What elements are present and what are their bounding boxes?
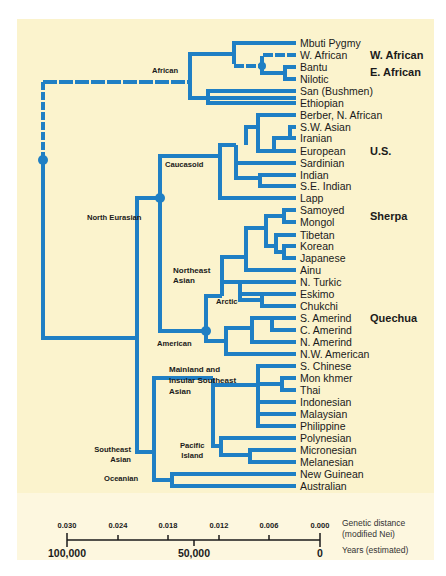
leaf-label: Nilotic [300, 73, 329, 85]
leaf-label: Australian [300, 480, 347, 492]
clade-label-caucasoid: Caucasoid [165, 160, 203, 170]
distance-tick: 0.030 [58, 521, 77, 530]
leaf-label: S. Chinese [300, 360, 351, 372]
leaf-label: San (Bushmen) [300, 85, 373, 97]
leaf-label: N.W. American [300, 348, 369, 360]
leaf-label: Polynesian [300, 432, 351, 444]
leaf-label: Ainu [300, 264, 321, 276]
clade-label-oceanian: Oceanian [104, 474, 138, 484]
distance-tick: 0.006 [260, 521, 279, 530]
leaf-label: Chukchi [300, 300, 338, 312]
leaf-label: Mbuti Pygmy [300, 37, 361, 49]
leaf-label: S.E. Indian [300, 180, 351, 192]
leaf-label: Eskimo [300, 288, 334, 300]
population-label-us: U.S. [370, 145, 391, 157]
leaf-label: Ethiopian [300, 97, 344, 109]
distance-tick: 0.018 [159, 521, 178, 530]
clade-label-north-eurasian: North Eurasian [87, 213, 141, 223]
leaf-label: Korean [300, 240, 334, 252]
population-label-quechua: Quechua [370, 312, 417, 324]
distance-tick: 0.012 [210, 521, 229, 530]
leaf-label: Iranian [300, 132, 332, 144]
leaf-label: Melanesian [300, 456, 354, 468]
years-tick: 50,000 [178, 547, 210, 559]
years-label: Years (estimated) [342, 545, 408, 556]
leaf-label: C. Amerind [300, 324, 352, 336]
leaf-label: New Guinean [300, 468, 364, 480]
leaf-label: Micronesian [300, 444, 357, 456]
leaf-label: Berber, N. African [300, 109, 382, 121]
years-tick: 100,000 [48, 547, 86, 559]
leaf-label: N. Turkic [300, 276, 341, 288]
leaf-label: Philippine [300, 420, 346, 432]
leaf-label: N. Amerind [300, 336, 352, 348]
leaf-label: Malaysian [300, 408, 347, 420]
clade-label-northeast-asian: Northeast Asian [173, 266, 210, 286]
leaf-label: Japanese [300, 252, 346, 264]
leaf-label: Indonesian [300, 396, 351, 408]
distance-tick: 0.000 [311, 521, 330, 530]
leaf-label: Bantu [300, 61, 327, 73]
tree-branches [43, 43, 296, 486]
leaf-label: European [300, 145, 346, 157]
clade-label-pacific-island: Pacific Island [180, 441, 204, 461]
leaf-label: Sardinian [300, 157, 344, 169]
genetic-distance-label: Genetic distance (modified Nei) [342, 518, 405, 540]
leaf-label: W. African [300, 49, 347, 61]
clade-label-southeast-asian: Southeast Asian [88, 445, 131, 465]
leaf-label: Samoyed [300, 204, 344, 216]
scale-axis [67, 533, 320, 547]
leaf-label: Lapp [300, 192, 323, 204]
leaf-label: S. Amerind [300, 312, 351, 324]
population-label-e-african: E. African [370, 66, 421, 78]
leaf-label: Mongol [300, 216, 334, 228]
years-tick: 0 [317, 547, 323, 559]
clade-label-african: African [152, 66, 178, 76]
clade-label-american: American [157, 339, 192, 349]
clade-label-mainland-southeast-asian: Mainland and Insular Southeast Asian [169, 364, 236, 397]
population-label-sherpa: Sherpa [370, 210, 407, 222]
distance-tick: 0.024 [109, 521, 128, 530]
clade-label-arctic: Arctic [216, 297, 238, 307]
phylogenetic-tree [0, 0, 446, 576]
leaf-label: Mon khmer [300, 372, 353, 384]
population-label-w-african: W. African [370, 49, 423, 61]
leaf-label: Thai [300, 384, 320, 396]
